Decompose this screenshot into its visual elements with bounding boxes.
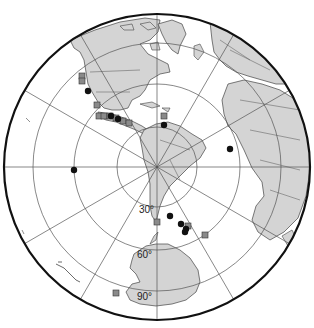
circle-marker — [161, 122, 167, 128]
circle-marker — [182, 229, 188, 235]
circle-marker — [227, 146, 233, 152]
circle-marker — [71, 167, 77, 173]
polar-map: 30° 60° 90° — [0, 0, 314, 328]
circle-marker — [108, 113, 114, 119]
square-marker — [154, 219, 160, 225]
latitude-label-60: 60° — [137, 250, 152, 260]
circle-marker — [115, 116, 121, 122]
square-marker — [202, 232, 208, 238]
circle-marker — [85, 88, 91, 94]
square-marker — [94, 102, 100, 108]
circle-marker — [178, 221, 184, 227]
square-marker — [101, 113, 107, 119]
latitude-label-90: 90° — [137, 292, 152, 302]
square-marker — [126, 120, 132, 126]
square-marker — [79, 78, 85, 84]
latitude-label-30: 30° — [139, 205, 154, 215]
square-marker — [113, 290, 119, 296]
circle-marker — [167, 213, 173, 219]
square-marker — [161, 113, 167, 119]
map-canvas — [0, 0, 314, 328]
